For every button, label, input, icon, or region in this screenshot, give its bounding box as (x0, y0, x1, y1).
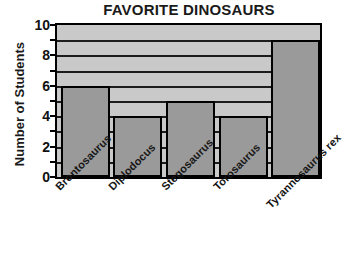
y-axis-tick-label: 10 (28, 18, 50, 32)
chart-title: FAVORITE DINOSAURS (55, 0, 323, 20)
y-axis-tick-label: 2 (28, 140, 50, 154)
y-axis-tick-label: 8 (28, 48, 50, 62)
y-axis-tick-label: 4 (28, 109, 50, 123)
y-axis-tick-label: 0 (28, 170, 50, 184)
y-axis-tick-labels: 0246810 (26, 0, 50, 265)
y-axis-title-text: Number of Students (12, 42, 27, 166)
y-axis-tick-label: 6 (28, 79, 50, 93)
